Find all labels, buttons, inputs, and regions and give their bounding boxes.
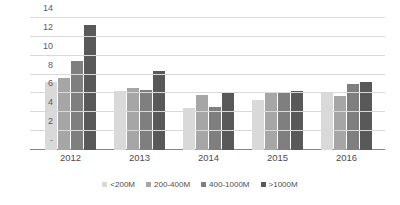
y-axis-tick-label: 6 xyxy=(31,78,53,88)
bar[interactable] xyxy=(265,93,277,151)
bar[interactable] xyxy=(84,25,96,150)
bar[interactable] xyxy=(140,90,152,150)
bar[interactable] xyxy=(347,84,359,150)
x-axis-labels: 20122013201420152016 xyxy=(30,152,385,163)
legend-swatch-icon xyxy=(201,182,206,187)
bar[interactable] xyxy=(334,96,346,150)
plot-area-wrapper: -2468101214 xyxy=(30,18,385,150)
legend-label: 200-400M xyxy=(154,180,190,189)
bar[interactable] xyxy=(127,88,139,150)
bar[interactable] xyxy=(71,61,83,150)
bar[interactable] xyxy=(321,93,333,150)
bar[interactable] xyxy=(196,95,208,150)
bar[interactable] xyxy=(278,93,290,151)
legend-label: 400-1000M xyxy=(209,180,249,189)
gridline xyxy=(30,130,385,131)
x-axis-tick-label: 2012 xyxy=(36,152,105,163)
chart-legend: <200M200-400M400-1000M>1000M xyxy=(0,180,400,189)
bar[interactable] xyxy=(291,91,303,150)
gridline xyxy=(30,17,385,18)
y-axis-tick-label: 2 xyxy=(31,116,53,126)
legend-swatch-icon xyxy=(146,182,151,187)
y-axis-tick-label: 8 xyxy=(31,60,53,70)
y-axis-tick-label: 10 xyxy=(31,41,53,51)
x-axis-tick-label: 2016 xyxy=(312,152,381,163)
bar-chart: -2468101214 20122013201420152016 <200M20… xyxy=(0,0,400,205)
bar[interactable] xyxy=(183,108,195,150)
bar[interactable] xyxy=(252,100,264,150)
legend-item[interactable]: >1000M xyxy=(261,180,298,189)
y-axis-tick-label: 14 xyxy=(31,3,53,13)
bar[interactable] xyxy=(58,78,70,150)
gridline xyxy=(30,92,385,93)
y-axis-tick-label: 4 xyxy=(31,97,53,107)
plot-area: -2468101214 xyxy=(30,18,385,150)
legend-label: <200M xyxy=(110,180,135,189)
x-axis-tick-label: 2015 xyxy=(243,152,312,163)
legend-swatch-icon xyxy=(102,182,107,187)
y-axis-tick-label: - xyxy=(31,135,53,145)
legend-swatch-icon xyxy=(261,182,266,187)
bar[interactable] xyxy=(222,93,234,150)
x-axis-tick-label: 2013 xyxy=(105,152,174,163)
gridline xyxy=(30,36,385,37)
legend-item[interactable]: 400-1000M xyxy=(201,180,249,189)
gridline xyxy=(30,55,385,56)
bar[interactable] xyxy=(114,91,126,150)
bar[interactable] xyxy=(209,107,221,150)
legend-label: >1000M xyxy=(269,180,298,189)
y-axis-tick-label: 12 xyxy=(31,22,53,32)
legend-item[interactable]: 200-400M xyxy=(146,180,190,189)
legend-item[interactable]: <200M xyxy=(102,180,135,189)
gridline xyxy=(30,111,385,112)
x-axis-tick-label: 2014 xyxy=(174,152,243,163)
gridline xyxy=(30,74,385,75)
